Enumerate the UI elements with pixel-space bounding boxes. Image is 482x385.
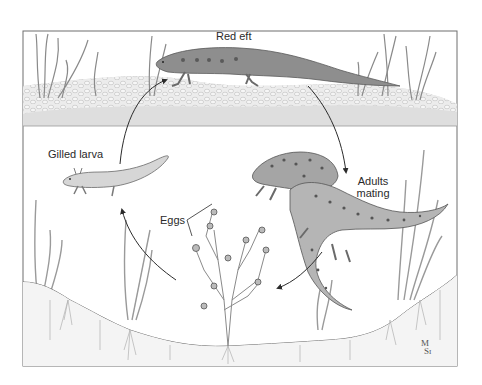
newt-life-cycle-illustration <box>0 0 482 385</box>
label-adults-line1: Adults <box>354 175 392 187</box>
label-adults-mating: Adults mating <box>354 175 392 199</box>
label-gilled-larva: Gilled larva <box>48 148 103 160</box>
label-eggs: Eggs <box>160 214 185 226</box>
artist-signature: M SI <box>421 339 431 356</box>
label-red-eft: Red eft <box>216 30 251 42</box>
signature-i: I <box>429 348 431 356</box>
label-adults-line2: mating <box>354 187 392 199</box>
